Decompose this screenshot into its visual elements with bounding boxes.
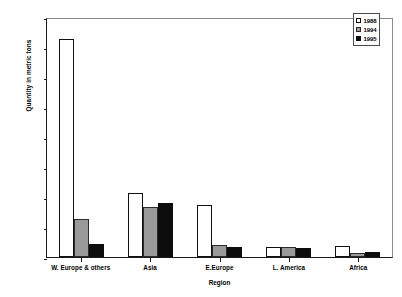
x-tick-cell xyxy=(185,258,254,263)
x-tick-cell xyxy=(46,258,115,263)
legend-item-1995: 1995 xyxy=(356,34,376,43)
legend-item-1994: 1994 xyxy=(356,25,376,34)
bar-1995-Asia xyxy=(158,203,173,257)
x-tick-mark xyxy=(289,258,290,262)
bar-1995-EEurope xyxy=(227,247,242,257)
bar-1988-Africa xyxy=(335,246,350,257)
legend-label: 1995 xyxy=(364,36,377,42)
bar-1994-Asia xyxy=(143,207,158,257)
bar-group xyxy=(185,19,254,257)
x-tick-mark xyxy=(150,258,151,262)
bar-1995-WEuropeothers xyxy=(89,244,104,257)
bar-chart: Quantity in metric tons 0100000200000300… xyxy=(0,0,402,297)
x-tick-label: Africa xyxy=(324,264,393,271)
x-axis-title: Region xyxy=(46,279,393,286)
x-tick-label: L. America xyxy=(254,264,323,271)
bar-1994-Africa xyxy=(350,253,365,258)
bar-1988-EEurope xyxy=(197,205,212,258)
legend-swatch-icon xyxy=(356,18,361,23)
bar-1994-EEurope xyxy=(212,245,227,257)
bar-group xyxy=(116,19,185,257)
bars-layer xyxy=(47,19,392,257)
legend-label: 1988 xyxy=(364,18,377,24)
x-tick-mark xyxy=(81,258,82,262)
bar-1994-LAmerica xyxy=(281,247,296,257)
x-tick-mark xyxy=(220,258,221,262)
legend-swatch-icon xyxy=(356,27,361,32)
bar-1988-WEuropeothers xyxy=(59,39,74,257)
bar-group xyxy=(47,19,116,257)
x-tick-label: W. Europe & others xyxy=(46,264,115,271)
bar-1995-Africa xyxy=(365,252,380,257)
x-tick-cell xyxy=(324,258,393,263)
legend: 198819941995 xyxy=(353,13,380,46)
x-axis-labels: W. Europe & othersAsiaE.EuropeL. America… xyxy=(46,264,393,271)
x-tick-label: E.Europe xyxy=(185,264,254,271)
plot-area: 0100000200000300000400000500000600000700… xyxy=(46,18,393,258)
legend-label: 1994 xyxy=(364,27,377,33)
x-tick-cell xyxy=(254,258,323,263)
bar-1988-Asia xyxy=(128,193,143,258)
bar-group xyxy=(254,19,323,257)
y-axis-title: Quantity in metric tons xyxy=(25,16,32,136)
bar-1994-WEuropeothers xyxy=(74,219,89,257)
legend-item-1988: 1988 xyxy=(356,16,376,25)
x-axis-ticks xyxy=(46,258,393,263)
bar-1995-LAmerica xyxy=(296,248,311,257)
x-tick-cell xyxy=(115,258,184,263)
legend-swatch-icon xyxy=(356,36,361,41)
bar-group xyxy=(323,19,392,257)
bar-1988-LAmerica xyxy=(266,247,281,257)
x-tick-mark xyxy=(358,258,359,262)
x-tick-label: Asia xyxy=(115,264,184,271)
